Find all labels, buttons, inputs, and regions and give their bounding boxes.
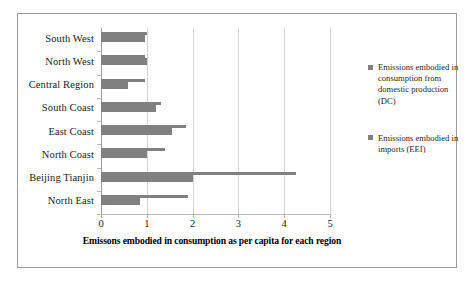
category-label: South Coast	[42, 102, 94, 113]
legend-label: Emissions embodied in imports (EEI)	[378, 133, 458, 154]
legend-swatch-icon	[368, 65, 373, 70]
bar-dc	[101, 128, 172, 135]
x-tick-label-5: 5	[320, 218, 340, 229]
chart-legend: Emissions embodied in consumption from d…	[368, 62, 460, 181]
x-axis-line	[101, 214, 330, 215]
bar-dc	[101, 58, 147, 65]
chart-figure: 012345 Emissons embodied in consumption …	[0, 0, 473, 287]
y-tick	[97, 168, 101, 169]
bar-dc	[101, 175, 193, 182]
x-tick-label-2: 2	[183, 218, 203, 229]
y-tick	[97, 121, 101, 122]
category-label: East Coast	[48, 126, 94, 137]
category-label: Central Region	[29, 79, 94, 90]
bar-dc	[101, 151, 147, 158]
x-tick-label-3: 3	[228, 218, 248, 229]
bar-dc	[101, 82, 128, 89]
y-tick	[97, 191, 101, 192]
legend-entry: Emissions embodied in imports (EEI)	[368, 133, 460, 155]
legend-entry: Emissions embodied in consumption from d…	[368, 62, 460, 107]
y-tick	[97, 98, 101, 99]
x-tick-label-1: 1	[137, 218, 157, 229]
x-tick-label-0: 0	[91, 218, 111, 229]
category-label: South West	[45, 33, 94, 44]
bar-dc	[101, 198, 140, 205]
category-label: North East	[48, 195, 94, 206]
bar-dc	[101, 105, 156, 112]
category-label: North West	[45, 56, 94, 67]
y-tick	[97, 144, 101, 145]
legend-swatch-icon	[368, 135, 373, 140]
x-tick-label-4: 4	[274, 218, 294, 229]
category-label: North Coast	[42, 149, 94, 160]
bar-dc	[101, 35, 145, 42]
legend-label: Emissions embodied in consumption from d…	[378, 62, 458, 106]
y-tick	[97, 51, 101, 52]
x-axis-title: Emissons embodied in consumption as per …	[62, 235, 362, 246]
category-label: Beijing Tianjin	[29, 172, 94, 183]
y-tick	[97, 75, 101, 76]
y-tick	[97, 214, 101, 215]
